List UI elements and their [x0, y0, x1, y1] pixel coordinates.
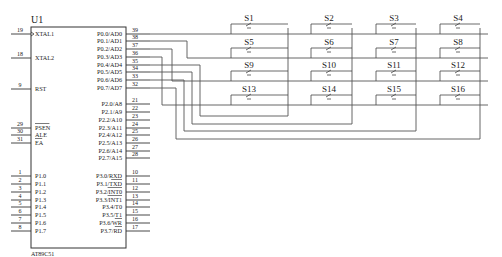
pin-name: P3.6/WR — [99, 219, 123, 226]
row-bus-3 — [150, 49, 488, 81]
pin-number: 21 — [132, 97, 138, 103]
pin-9[interactable]: 9RST — [11, 82, 47, 92]
pin-name: P0.2/AD2 — [97, 45, 122, 52]
column-bus-4 — [150, 28, 480, 139]
pin-name: EA — [35, 139, 44, 146]
pin-number: 26 — [132, 136, 138, 142]
pin-name: RST — [35, 85, 47, 92]
pin-number: 9 — [19, 82, 22, 88]
pin-number: 10 — [132, 169, 138, 175]
pin-number: 35 — [132, 58, 138, 64]
pin-number: 28 — [132, 151, 138, 157]
pin-name: P2.6/A14 — [98, 147, 122, 154]
switch-s16[interactable]: S16 — [440, 84, 480, 105]
pin-number: 24 — [132, 121, 138, 127]
pin-39[interactable]: 39P0.0/AD0 — [97, 27, 150, 37]
switch-s9[interactable]: S9 — [231, 60, 288, 81]
switch-label: S14 — [322, 84, 337, 94]
pin-18[interactable]: 18XTAL2 — [11, 51, 54, 61]
row-bus-2 — [150, 41, 488, 58]
pin-number: 33 — [132, 73, 138, 79]
keypad-matrix: S1S2S3S4S5S6S7S8S9S10S11S12S13S14S15S16 — [231, 13, 480, 105]
pin-number: 8 — [19, 224, 22, 230]
switch-s10[interactable]: S10 — [311, 60, 352, 81]
pin-name: XTAL2 — [35, 54, 54, 61]
switch-label: S2 — [324, 13, 334, 23]
left-pins: 19XTAL118XTAL29RST29PSEN30ALE31EA1P1.02P… — [11, 27, 54, 234]
pin-number: 29 — [17, 121, 23, 127]
pin-name: P1.1 — [35, 180, 46, 187]
pin-name: P2.7/A15 — [98, 154, 122, 161]
pin-1[interactable]: 1P1.0 — [11, 169, 46, 179]
switch-s11[interactable]: S11 — [376, 60, 416, 81]
pin-name: P1.7 — [35, 227, 46, 234]
pin-name: P1.4 — [35, 203, 46, 210]
pin-number: 7 — [19, 216, 22, 222]
pin-number: 38 — [132, 34, 138, 40]
pin-name: P3.0/RXD — [96, 172, 122, 179]
switch-lead — [440, 95, 480, 105]
switch-lead — [376, 24, 416, 34]
switch-s15[interactable]: S15 — [376, 84, 416, 105]
switch-s12[interactable]: S12 — [440, 60, 480, 81]
pin-name: PSEN — [35, 124, 51, 131]
pin-number: 12 — [132, 185, 138, 191]
switch-label: S4 — [453, 13, 463, 23]
pin-number: 39 — [132, 27, 138, 33]
pin-name: P0.0/AD0 — [97, 30, 122, 37]
pin-name: P0.1/AD1 — [97, 37, 122, 44]
schematic-canvas: U1 AT89C51 19XTAL118XTAL29RST29PSEN30ALE… — [0, 0, 502, 257]
pin-number: 22 — [132, 105, 138, 111]
switch-lead — [231, 71, 288, 81]
switch-label: S1 — [244, 13, 254, 23]
switch-lead — [311, 95, 352, 105]
pin-name: P2.3/A11 — [99, 124, 122, 131]
pin-name: P2.1/A9 — [102, 108, 122, 115]
pin-name: P0.5/AD5 — [97, 68, 122, 75]
switch-label: S8 — [453, 37, 463, 47]
switch-s6[interactable]: S6 — [311, 37, 352, 58]
switch-s2[interactable]: S2 — [311, 13, 352, 34]
pin-name: P2.0/A8 — [102, 100, 122, 107]
pin-name: P1.0 — [35, 172, 46, 179]
switch-label: S13 — [242, 84, 257, 94]
pin-name: P1.6 — [35, 219, 46, 226]
pin-number: 34 — [132, 65, 138, 71]
switch-s8[interactable]: S8 — [440, 37, 480, 58]
switch-s14[interactable]: S14 — [311, 84, 352, 105]
pin-number: 15 — [132, 208, 138, 214]
pin-number: 31 — [17, 136, 23, 142]
pin-name: P2.5/A13 — [98, 139, 122, 146]
pin-10[interactable]: 10P3.0/RXD — [96, 169, 150, 179]
switch-s1[interactable]: S1 — [231, 13, 288, 34]
pin-name: P3.3/INT1 — [96, 196, 122, 203]
pin-name: P3.1/TXD — [96, 180, 122, 187]
pin-name: P0.3/AD3 — [97, 53, 122, 60]
chip-part-label: AT89C51 — [31, 251, 54, 257]
switch-label: S11 — [387, 60, 401, 70]
pin-number: 18 — [17, 51, 23, 57]
switch-s3[interactable]: S3 — [376, 13, 416, 34]
switch-label: S6 — [324, 37, 334, 47]
pin-number: 19 — [17, 27, 23, 33]
pin-number: 4 — [19, 193, 22, 199]
switch-label: S15 — [387, 84, 402, 94]
switch-s13[interactable]: S13 — [231, 84, 288, 105]
pin-number: 32 — [132, 81, 138, 87]
switch-label: S16 — [451, 84, 466, 94]
pin-number: 36 — [132, 50, 138, 56]
pin-number: 2 — [19, 177, 22, 183]
pin-number: 3 — [19, 185, 22, 191]
pin-number: 1 — [19, 169, 22, 175]
switch-s4[interactable]: S4 — [440, 13, 480, 34]
switch-s7[interactable]: S7 — [376, 37, 416, 58]
switch-lead — [231, 95, 288, 105]
pin-name: P1.2 — [35, 188, 46, 195]
switch-lead — [376, 95, 416, 105]
pin-number: 25 — [132, 128, 138, 134]
switch-lead — [440, 71, 480, 81]
pin-19[interactable]: 19XTAL1 — [11, 27, 54, 37]
switch-lead — [376, 71, 416, 81]
switch-s5[interactable]: S5 — [231, 37, 288, 58]
pin-name: P0.6/AD6 — [97, 76, 122, 83]
